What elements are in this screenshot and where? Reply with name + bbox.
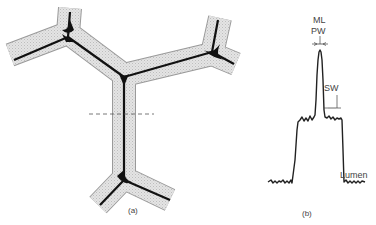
cell-wall-diagram: [10, 8, 236, 205]
label-sw: SW: [324, 84, 339, 93]
caption-a: (a): [128, 207, 138, 215]
density-profile: [268, 36, 365, 183]
label-pw: PW: [311, 27, 326, 36]
label-ml: ML: [313, 16, 326, 25]
caption-b: (b): [302, 210, 312, 218]
label-lumen: Lumen: [340, 171, 368, 180]
